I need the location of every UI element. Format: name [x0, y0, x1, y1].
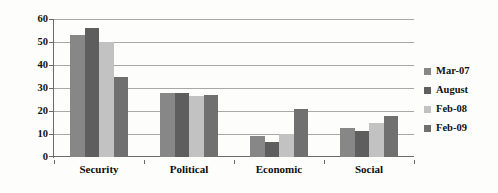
x-axis-tick-mark [414, 160, 415, 164]
bar-chart: 0102030405060 SecurityPoliticalEconomicS… [0, 0, 498, 193]
bar-group [340, 19, 398, 157]
x-axis-category-label: Economic [256, 164, 302, 175]
legend-item-label: Feb-08 [436, 104, 467, 115]
chart-legend: Mar-07AugustFeb-08Feb-09 [424, 62, 494, 138]
x-axis-tick-mark [234, 160, 235, 164]
bar [99, 42, 114, 157]
legend-swatch-icon [424, 87, 431, 94]
x-axis-category-label: Political [170, 164, 209, 175]
x-axis-tick-mark [54, 160, 55, 164]
x-axis-category-label: Social [355, 164, 383, 175]
bar [160, 93, 175, 157]
bar [340, 128, 355, 157]
x-axis-category-label: Security [79, 164, 118, 175]
bar [250, 136, 265, 157]
bar-group [250, 19, 308, 157]
x-axis-tick-mark [144, 160, 145, 164]
legend-swatch-icon [424, 125, 431, 132]
x-axis-tick-mark [324, 160, 325, 164]
legend-swatch-icon [424, 68, 431, 75]
bar [189, 96, 204, 157]
bar [204, 95, 219, 157]
y-axis-ticks [0, 19, 54, 157]
legend-item[interactable]: Feb-09 [424, 119, 494, 138]
bar-group [70, 19, 128, 157]
bar [384, 116, 399, 157]
legend-item-label: August [436, 85, 468, 96]
bar [70, 35, 85, 157]
legend-item[interactable]: Mar-07 [424, 62, 494, 81]
bar [175, 93, 190, 157]
bar [294, 109, 309, 157]
bar [114, 77, 129, 158]
legend-swatch-icon [424, 106, 431, 113]
legend-item[interactable]: August [424, 81, 494, 100]
bar-group [160, 19, 218, 157]
plot-area [54, 19, 414, 157]
bar [85, 28, 100, 157]
bar [355, 131, 370, 157]
bar [369, 123, 384, 158]
bar [279, 134, 294, 157]
bar [265, 142, 280, 157]
legend-item-label: Feb-09 [436, 123, 467, 134]
legend-item[interactable]: Feb-08 [424, 100, 494, 119]
legend-item-label: Mar-07 [436, 66, 469, 77]
x-axis-labels: SecurityPoliticalEconomicSocial [54, 160, 414, 182]
